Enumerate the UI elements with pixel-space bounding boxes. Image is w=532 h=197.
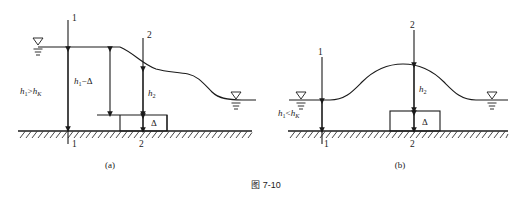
dimension-h2-b: h2 xyxy=(414,65,427,110)
panel-a-section-top-2: 2 xyxy=(147,30,152,40)
dimension-delta-a: Δ xyxy=(143,116,157,130)
ground-hatch-a xyxy=(18,131,252,138)
panel-a-section-bottom-2: 2 xyxy=(139,139,144,149)
panel-b-section-top-1: 1 xyxy=(318,47,323,57)
panel-a-label-delta: Δ xyxy=(151,118,157,128)
panel-b-label-h2: h2 xyxy=(419,84,427,95)
dimension-h1-lt-hk-b: h1<hK xyxy=(278,101,322,130)
panel-b-label-delta: Δ xyxy=(422,117,428,127)
ground-hatch-b xyxy=(288,131,508,138)
panel-b-section-top-2: 2 xyxy=(410,20,415,30)
panel-b-label-h1-lt-hk: h1<hK xyxy=(278,108,300,119)
dimension-h1-gt-hk-a: h1>hK xyxy=(20,49,68,129)
panel-a-label: (a) xyxy=(105,160,115,170)
figure-7-10: 1 1 2 2 h1>hK h1−Δ h2 xyxy=(0,0,532,197)
step-sill-b xyxy=(390,111,440,131)
panel-a: 1 1 2 2 h1>hK h1−Δ h2 xyxy=(18,13,256,170)
panel-a-label-h1-gt-hk: h1>hK xyxy=(20,86,42,97)
panel-b: 1 1 2 2 h1<hK h2 Δ (b) xyxy=(278,20,508,170)
panel-b-section-bottom-2: 2 xyxy=(410,139,415,149)
panel-b-section-bottom-1: 1 xyxy=(324,139,329,149)
water-surface-profile-a xyxy=(38,47,256,100)
panel-b-label: (b) xyxy=(395,160,406,170)
dimension-delta-b: Δ xyxy=(414,113,428,130)
panel-a-label-h1-minus-delta: h1−Δ xyxy=(74,76,93,87)
panel-a-section-top-1: 1 xyxy=(72,13,77,23)
panel-a-section-bottom-1: 1 xyxy=(72,139,77,149)
dimension-h1-minus-delta-a: h1−Δ xyxy=(74,49,110,114)
dimension-h2-a: h2 xyxy=(143,69,156,114)
figure-caption: 图 7-10 xyxy=(251,180,281,190)
panel-a-label-h2: h2 xyxy=(148,88,156,99)
hydraulics-diagram-svg: 1 1 2 2 h1>hK h1−Δ h2 xyxy=(0,0,532,197)
